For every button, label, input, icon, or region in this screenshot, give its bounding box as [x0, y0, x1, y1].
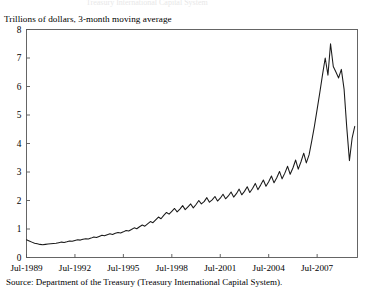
- x-axis-tick-labels: Jul-1989Jul-1992Jul-1995Jul-1998Jul-2001…: [10, 263, 333, 273]
- axes: [27, 30, 358, 258]
- svg-text:0: 0: [17, 253, 22, 263]
- source-note: Source: Department of the Treasury (Trea…: [6, 277, 282, 287]
- svg-text:Jul-2001: Jul-2001: [204, 263, 237, 273]
- svg-text:5: 5: [17, 110, 22, 120]
- svg-text:7: 7: [17, 53, 22, 63]
- svg-text:8: 8: [17, 25, 22, 35]
- data-series: [27, 44, 355, 245]
- svg-text:Jul-1995: Jul-1995: [107, 263, 140, 273]
- svg-text:1: 1: [17, 224, 22, 234]
- y-axis-tick-labels: 012345678: [17, 25, 22, 263]
- svg-text:Jul-2004: Jul-2004: [253, 263, 286, 273]
- tick-marks: [27, 30, 318, 258]
- plot-area: 012345678 Jul-1989Jul-1992Jul-1995Jul-19…: [0, 0, 370, 297]
- svg-text:6: 6: [17, 82, 22, 92]
- svg-text:Jul-1992: Jul-1992: [59, 263, 92, 273]
- svg-text:4: 4: [17, 139, 22, 149]
- svg-text:2: 2: [17, 196, 22, 206]
- svg-text:Jul-2007: Jul-2007: [301, 263, 334, 273]
- svg-text:Jul-1989: Jul-1989: [10, 263, 43, 273]
- svg-text:Jul-1998: Jul-1998: [156, 263, 189, 273]
- chart-figure: Treasury International Capital System Tr…: [0, 0, 370, 297]
- svg-text:3: 3: [17, 167, 22, 177]
